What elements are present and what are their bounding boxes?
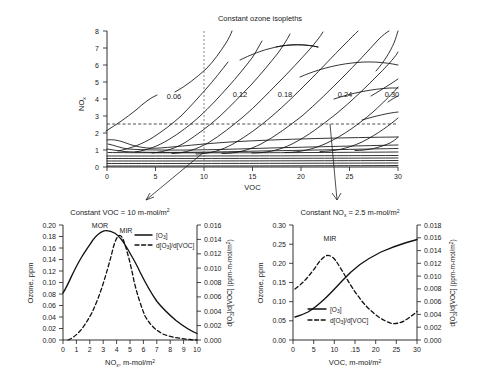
left-ytick-9: 0.18	[42, 233, 56, 240]
left-legend: [O3] d[O3]/d[VOC]	[135, 232, 194, 251]
right-legend: [O3] d[O3]/d[VOC]	[308, 306, 368, 326]
right-y2tick-3: 0.006	[424, 298, 442, 305]
right-xtick-0: 0	[291, 346, 295, 353]
left-ytick-3: 0.06	[42, 302, 56, 309]
contour-line	[118, 62, 228, 151]
left-chart-title: Constant VOC = 10 m-mol/m2	[70, 207, 170, 217]
right-ytick-1: 0.05	[272, 317, 286, 324]
top-contour-panel: Constant ozone isopleths 0 5 10 15 20 25…	[77, 14, 402, 200]
top-x-tick-5: 25	[346, 173, 354, 180]
top-x-ticks: 0 5 10 15 20 25 30	[105, 167, 402, 180]
right-y2tick-4: 0.008	[424, 285, 442, 292]
left-ytick-10: 0.20	[42, 222, 56, 229]
left-y2tick-1: 0.002	[204, 322, 222, 329]
left-y2tick-0: 0.000	[204, 337, 222, 344]
top-y-axis-label: NO	[77, 99, 86, 110]
top-y-tick-7: 7	[95, 45, 99, 52]
right-y-axis-label: Ozone, ppm	[256, 263, 265, 304]
top-y-tick-6: 6	[95, 62, 99, 69]
contour-line	[107, 163, 398, 164]
right-y2-axis-label: d[O3]/d[VOC] (ppm-m-mol/m2)	[448, 239, 458, 326]
left-y2tick-2: 0.004	[204, 308, 222, 315]
left-series-derivative	[68, 235, 197, 340]
left-xtick-3: 3	[101, 346, 105, 353]
right-y2tick-1: 0.002	[424, 324, 442, 331]
top-x-tick-1: 5	[154, 173, 158, 180]
top-y-tick-8: 8	[95, 28, 99, 35]
right-series-o3	[295, 240, 417, 318]
right-ytick-5: 0.25	[272, 241, 286, 248]
right-y2tick-0: 0.000	[424, 337, 442, 344]
contour-label-0.30: 0.30	[385, 90, 400, 99]
left-xtick-2: 2	[88, 346, 92, 353]
right-y2tick-5: 0.010	[424, 273, 442, 280]
left-xtick-8: 8	[168, 346, 172, 353]
top-y-axis-label-group: NOx	[77, 97, 87, 111]
contour-label-0.18: 0.18	[278, 90, 293, 99]
top-y-ticks: 0 1 2 3 4 5 6 7 8	[95, 28, 107, 171]
left-y2tick-5: 0.010	[204, 265, 222, 272]
top-y-tick-2: 2	[95, 130, 99, 137]
contour-line	[107, 156, 398, 157]
left-y2-axis-label: d[O3]/d[VOC] (ppm-m-mol/m2)	[225, 239, 235, 326]
left-annotation-mor: MOR	[92, 222, 108, 229]
right-section-panel: Constant NOx = 2.5 m-mol/m2 0.00 0.05 0.…	[256, 208, 458, 368]
left-xtick-1: 1	[74, 346, 78, 353]
right-xtick-1: 5	[312, 346, 316, 353]
left-y2tick-7: 0.014	[204, 236, 222, 243]
left-ytick-4: 0.08	[42, 291, 56, 298]
left-xtick-10: 10	[193, 346, 201, 353]
left-y-ticks: 0.00 0.02 0.04 0.06 0.08 0.10 0.12 0.14 …	[42, 222, 63, 344]
figure-svg: Constant ozone isopleths 0 5 10 15 20 25…	[0, 0, 480, 380]
right-y2tick-7: 0.014	[424, 247, 442, 254]
contour-label-0.12: 0.12	[233, 90, 248, 99]
left-legend-label-o3: [O3]	[156, 232, 168, 241]
left-x-ticks: 0 1 2 3 4 5 6 7 8 9 10	[61, 340, 201, 353]
right-y-ticks: 0.00 0.05 0.10 0.15 0.20 0.25 0.30	[272, 222, 293, 344]
right-y2tick-8: 0.016	[424, 234, 442, 241]
right-xtick-5: 25	[392, 346, 400, 353]
left-ytick-5: 0.10	[42, 279, 56, 286]
contour-line-0p06-upper	[175, 31, 232, 92]
right-y2-axis-label-group: d[O3]/d[VOC] (ppm-m-mol/m2)	[448, 239, 458, 326]
contour-label-0.06: 0.06	[167, 92, 182, 101]
right-legend-label-o3: [O3]	[330, 306, 342, 315]
left-y2tick-3: 0.006	[204, 293, 222, 300]
svg-text:NOx: NOx	[77, 97, 87, 111]
leader-arrow-right	[330, 124, 341, 200]
contour-line	[107, 161, 398, 162]
right-series-derivative	[295, 255, 417, 323]
left-y2tick-8: 0.016	[204, 222, 222, 229]
right-legend-label-derivative: d[O3]/d[VOC]	[330, 317, 368, 326]
left-ytick-8: 0.16	[42, 245, 56, 252]
left-y2tick-6: 0.012	[204, 250, 222, 257]
top-y-tick-0: 0	[95, 164, 99, 171]
top-x-tick-2: 10	[200, 173, 208, 180]
left-ytick-1: 0.02	[42, 325, 56, 332]
left-xtick-6: 6	[141, 346, 145, 353]
top-y-tick-1: 1	[95, 147, 99, 154]
contour-label-0.24: 0.24	[338, 90, 353, 99]
left-xtick-5: 5	[128, 346, 132, 353]
right-chart-title: Constant NOx = 2.5 m-mol/m2	[301, 208, 400, 218]
top-x-tick-3: 15	[249, 173, 257, 180]
left-y-axis-label: Ozone, ppm	[26, 263, 35, 304]
right-xtick-6: 30	[413, 346, 421, 353]
left-y2tick-4: 0.008	[204, 279, 222, 286]
left-legend-label-derivative: d[O3]/d[VOC]	[156, 242, 194, 251]
right-y2tick-6: 0.012	[424, 260, 442, 267]
left-x-axis-label: NOx, m-mol/m2	[105, 358, 155, 368]
contour-line	[107, 158, 398, 159]
left-ytick-6: 0.12	[42, 268, 56, 275]
right-annotation-mir: MIR	[324, 235, 337, 242]
contour-line	[107, 166, 398, 167]
left-xtick-9: 9	[182, 346, 186, 353]
right-y2tick-2: 0.004	[424, 311, 442, 318]
top-x-tick-0: 0	[105, 173, 109, 180]
right-ytick-2: 0.10	[272, 298, 286, 305]
right-ytick-3: 0.15	[272, 279, 286, 286]
left-y2-ticks: 0.000 0.002 0.004 0.006 0.008 0.010 0.01…	[197, 222, 222, 344]
left-y-axis-label-group: Ozone, ppm	[26, 263, 35, 304]
top-y-tick-5: 5	[95, 79, 99, 86]
left-section-panel: Constant VOC = 10 m-mol/m2 0.00 0.02 0.0…	[26, 207, 235, 368]
